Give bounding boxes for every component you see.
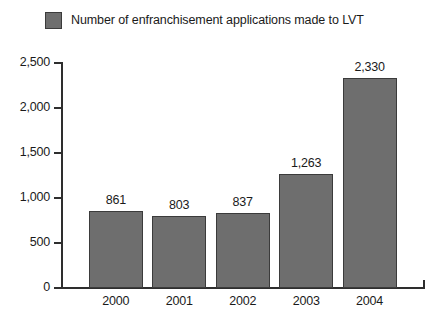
bar <box>152 216 206 288</box>
y-axis-line <box>61 62 63 289</box>
bar-value-label: 2,330 <box>329 61 411 74</box>
plot-area: 05001,0001,5002,0002,500 8618038371,2632… <box>0 0 443 325</box>
bar <box>216 213 270 288</box>
bar-value-label: 837 <box>202 196 284 209</box>
bar-chart: Number of enfranchisement applications m… <box>0 0 443 325</box>
y-axis-tick <box>54 197 62 199</box>
y-axis-tick-label: 0 <box>2 281 50 294</box>
bar <box>89 211 143 288</box>
y-axis-tick-label: 1,000 <box>2 191 50 204</box>
y-axis-tick-label: 500 <box>2 236 50 249</box>
y-axis-tick-label: 2,000 <box>2 101 50 114</box>
y-axis-tick <box>54 287 62 289</box>
y-axis-tick <box>54 62 62 64</box>
y-axis-tick <box>54 152 62 154</box>
x-axis-end-tick <box>423 280 425 289</box>
y-axis-tick <box>54 242 62 244</box>
x-axis-tick-label: 2004 <box>329 294 411 308</box>
y-axis-tick-label: 2,500 <box>2 56 50 69</box>
bar <box>343 78 397 288</box>
bar-value-label: 1,263 <box>265 157 347 170</box>
y-axis-tick-label: 1,500 <box>2 146 50 159</box>
y-axis-tick <box>54 107 62 109</box>
bar <box>279 174 333 288</box>
